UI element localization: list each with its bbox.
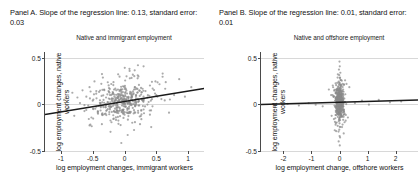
xtick-mark-1 (188, 151, 189, 154)
ytick-label-0: 0 (37, 101, 41, 108)
ytick-mark-neg0.5 (258, 151, 261, 152)
xtick-mark-0 (125, 151, 126, 154)
xtick-label-neg2: -2 (281, 155, 287, 162)
xtick-label-neg1: -1 (308, 155, 314, 162)
ytick-mark-neg0.5 (42, 151, 45, 152)
xtick-mark-1 (368, 151, 369, 154)
ytick-label-neg0.5: -0.5 (30, 148, 41, 155)
xtick-mark-0.5 (156, 151, 157, 154)
panel-a-yaxis-title: log employment changes, native workers (55, 52, 72, 152)
panel-b-plot-area: 0.5 0 -0.5 -2 -1 0 1 2 log employment ch… (260, 52, 418, 152)
xtick-label-1: 1 (366, 155, 370, 162)
xtick-label-1: 1 (186, 155, 190, 162)
xtick-mark-neg1 (311, 151, 312, 154)
xtick-label-0: 0 (338, 155, 342, 162)
panel-a-plot-area: 0.5 0 -0.5 -1 -0.5 0 0.5 1 log employmen… (44, 52, 204, 152)
panel-a-header: Panel A. Slope of the regression line: 0… (10, 8, 203, 27)
xtick-mark-0 (340, 151, 341, 154)
panel-b-xaxis-title: log employment change, offshore workers (276, 164, 404, 171)
xtick-label-0.5: 0.5 (152, 155, 161, 162)
xtick-label-neg0.5: -0.5 (87, 155, 98, 162)
xtick-label-0: 0 (123, 155, 127, 162)
xtick-mark-neg0.5 (93, 151, 94, 154)
panel-b: Panel B. Slope of the regression line: 0… (210, 0, 420, 182)
xtick-label-neg1: -1 (58, 155, 64, 162)
panel-a: Panel A. Slope of the regression line: 0… (0, 0, 210, 182)
panel-b-yaxis-title: log employment changes, native workers (271, 52, 288, 152)
ytick-label-0: 0 (253, 101, 257, 108)
xtick-mark-2 (396, 151, 397, 154)
xtick-label-2: 2 (394, 155, 398, 162)
ytick-label-neg0.5: -0.5 (246, 148, 257, 155)
panel-a-chart-title: Native and immigrant employment (44, 34, 204, 41)
panel-b-chart-title: Native and offshore employment (260, 34, 418, 41)
ytick-label-0.5: 0.5 (248, 54, 257, 61)
panel-b-header: Panel B. Slope of the regression line: 0… (219, 8, 417, 27)
panel-a-xaxis-title: log employment changes, immigrant worker… (56, 164, 193, 171)
ytick-label-0.5: 0.5 (32, 54, 41, 61)
figure-container: Panel A. Slope of the regression line: 0… (0, 0, 420, 182)
